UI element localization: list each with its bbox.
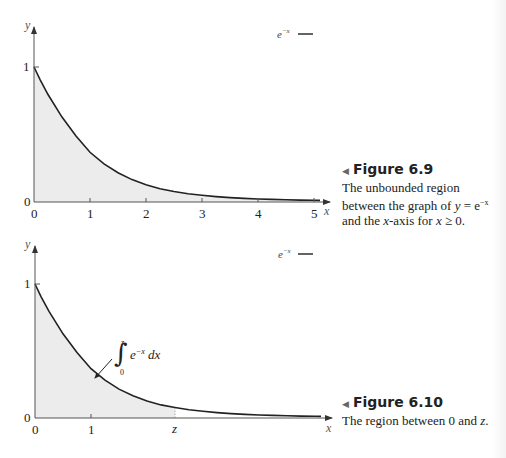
y-axis-label: y (25, 18, 30, 33)
x-tick-1: 1 (87, 206, 94, 222)
triangle-left-icon: ◀ (342, 166, 349, 176)
x-tick-1: 1 (88, 422, 95, 438)
figure-canvas (0, 0, 506, 458)
y-tick-0: 0 (24, 410, 31, 426)
x-tick-5: 5 (311, 206, 318, 222)
triangle-left-icon: ◀ (342, 399, 349, 409)
annotation-arrow (95, 359, 112, 378)
x-tick-2: 2 (143, 206, 150, 222)
y-axis-label: y (25, 237, 30, 252)
x-tick-0: 0 (31, 206, 38, 222)
figure-6-9-caption: ◀Figure 6.9 The unbounded region between… (342, 160, 502, 228)
x-tick-0: 0 (32, 422, 39, 438)
caption-title: ◀Figure 6.10 (342, 393, 502, 413)
x-tick-z: z (172, 421, 177, 437)
shaded-region (34, 67, 320, 202)
caption-title: ◀Figure 6.9 (342, 160, 502, 180)
y-tick-1: 1 (24, 276, 31, 292)
x-axis-label: x (324, 204, 329, 219)
page-edge-shadow (492, 0, 506, 458)
x-axis-label: x (326, 421, 331, 436)
legend-label: e−x (277, 27, 290, 40)
y-tick-0: 0 (24, 194, 31, 210)
x-tick-3: 3 (199, 206, 206, 222)
legend-label: e−x (278, 247, 291, 260)
x-tick-4: 4 (255, 206, 262, 222)
figure-6-10-plot (35, 246, 332, 418)
figure-6-9-plot (34, 27, 330, 202)
figure-6-10-caption: ◀Figure 6.10 The region between 0 and z. (342, 393, 502, 428)
y-tick-1: 1 (23, 59, 30, 75)
